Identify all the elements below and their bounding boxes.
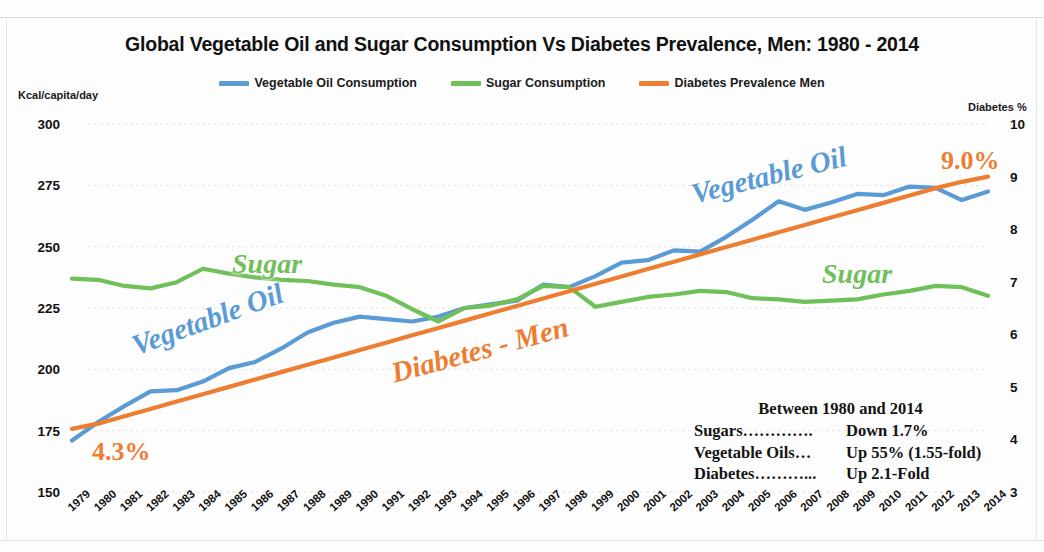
x-axis-tick-label: 2011 — [903, 487, 930, 513]
x-axis-tick-label: 1982 — [144, 487, 171, 513]
summary-row-value: Up 2.1-Fold — [846, 463, 929, 485]
x-axis-tick-label: 1981 — [118, 487, 145, 513]
x-axis-tick-label: 1998 — [563, 487, 590, 513]
x-axis-tick-label: 1990 — [353, 487, 380, 513]
y2-axis-tick-label: 5 — [1010, 380, 1018, 395]
summary-row: Vegetable Oils…Up 55% (1.55-fold) — [694, 442, 981, 464]
summary-rows: Sugars………….Down 1.7%Vegetable Oils…Up 55… — [694, 420, 981, 485]
x-axis-tick-label: 2013 — [955, 487, 982, 513]
summary-row-value: Down 1.7% — [846, 420, 929, 442]
callout-end-value: 9.0% — [941, 146, 1000, 176]
y2-axis-tick-label: 9 — [1010, 170, 1018, 185]
x-axis-tick-label: 1986 — [249, 487, 276, 513]
y2-axis-tick-label: 6 — [1010, 327, 1018, 342]
x-axis-tick-label: 2000 — [615, 487, 642, 513]
x-axis-tick-label: 1992 — [406, 487, 433, 513]
callout-start-value: 4.3% — [92, 437, 151, 467]
x-axis-tick-label: 1984 — [196, 487, 223, 513]
y-axis-tick-label: 200 — [37, 362, 60, 377]
x-axis-tick-label: 1999 — [589, 487, 616, 513]
x-axis-tick-label: 1979 — [65, 487, 92, 513]
x-axis-tick-label: 1985 — [222, 487, 249, 513]
x-axis-tick-label: 2009 — [850, 487, 877, 513]
y-axis-tick-label: 175 — [37, 424, 60, 439]
inline-label-sugar-left: Sugar — [232, 248, 302, 280]
summary-row-value: Up 55% (1.55-fold) — [846, 442, 981, 464]
summary-row: Sugars………….Down 1.7% — [694, 420, 981, 442]
y-axis-tick-label: 150 — [37, 485, 60, 500]
summary-row-key: Sugars…………. — [694, 420, 846, 442]
y-axis-tick-label: 300 — [37, 117, 60, 132]
x-axis-tick-label: 2006 — [772, 487, 799, 513]
x-axis-tick-label: 1980 — [91, 487, 118, 513]
x-axis-tick-label: 1997 — [536, 487, 563, 513]
y2-axis-tick-label: 8 — [1010, 222, 1018, 237]
summary-row: Diabetes………...Up 2.1-Fold — [694, 463, 981, 485]
y2-axis-tick-label: 3 — [1010, 485, 1018, 500]
x-axis-tick-label: 1996 — [510, 487, 537, 513]
x-axis-tick-label: 1994 — [458, 487, 485, 513]
x-axis-tick-label: 2003 — [693, 487, 720, 513]
x-axis-tick-label: 1987 — [275, 487, 302, 513]
y-axis-tick-label: 225 — [37, 301, 60, 316]
x-axis-tick-label: 1988 — [301, 487, 328, 513]
x-axis-tick-label: 2004 — [720, 487, 747, 513]
x-axis-tick-label: 2005 — [746, 487, 773, 513]
x-axis-tick-label: 1995 — [484, 487, 511, 513]
x-axis-tick-label: 2012 — [929, 487, 956, 513]
summary-row-key: Vegetable Oils… — [694, 442, 846, 464]
x-axis-tick-label: 2008 — [824, 487, 851, 513]
x-axis-tick-label: 1989 — [327, 487, 354, 513]
x-axis-tick-label: 2002 — [667, 487, 694, 513]
y-axis-tick-label: 250 — [37, 240, 60, 255]
summary-row-key: Diabetes………... — [694, 463, 846, 485]
x-axis-tick-label: 2007 — [798, 487, 825, 513]
chart-page: Global Vegetable Oil and Sugar Consumpti… — [0, 0, 1044, 552]
x-axis-tick-label: 1991 — [379, 487, 406, 513]
y-axis-tick-label: 275 — [37, 178, 60, 193]
y2-axis-tick-label: 7 — [1010, 275, 1018, 290]
y2-axis-tick-label: 4 — [1010, 432, 1018, 447]
x-axis-tick-label: 1993 — [432, 487, 459, 513]
x-axis-tick-label: 1983 — [170, 487, 197, 513]
y2-axis-tick-label: 10 — [1010, 117, 1025, 132]
x-axis-tick-label: 2010 — [877, 487, 904, 513]
x-axis-tick-label: 2001 — [641, 487, 668, 513]
summary-annotation: Between 1980 and 2014 Sugars………….Down 1.… — [694, 398, 981, 485]
summary-heading: Between 1980 and 2014 — [694, 398, 981, 420]
x-axis-tick-label: 2014 — [981, 487, 1008, 513]
inline-label-sugar-right: Sugar — [822, 258, 892, 290]
